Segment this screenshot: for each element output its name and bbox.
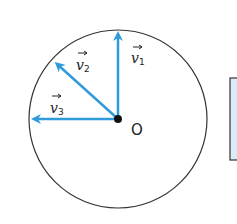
label-v3: v3	[50, 94, 64, 117]
svg-text:v3: v3	[50, 100, 64, 117]
svg-text:v2: v2	[76, 57, 90, 74]
label-v2: v2	[76, 51, 90, 74]
side-box	[230, 78, 237, 160]
circle-vector-diagram: v1 v2 v3 O	[0, 0, 237, 224]
label-v1: v1	[131, 45, 145, 67]
svg-text:v1: v1	[131, 50, 145, 67]
origin-label: O	[131, 121, 143, 139]
origin-point	[114, 115, 122, 123]
